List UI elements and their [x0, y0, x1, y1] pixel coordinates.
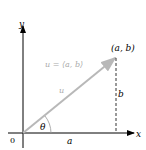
origin-label: 0 — [10, 136, 15, 145]
x-axis-label: x — [136, 129, 141, 139]
vertical-component-label: b — [118, 89, 124, 99]
vector-label: u — [59, 86, 64, 95]
y-axis-label: y — [18, 19, 25, 29]
vector-u — [23, 58, 115, 133]
vector-diagram: y x 0 (a, b) u = ⟨a, b⟩ u θ a b — [0, 0, 146, 150]
vector-definition-label: u = ⟨a, b⟩ — [45, 60, 83, 69]
horizontal-component-label: a — [67, 136, 72, 146]
point-label: (a, b) — [111, 43, 135, 53]
angle-label: θ — [40, 122, 46, 132]
angle-arc — [45, 116, 51, 133]
